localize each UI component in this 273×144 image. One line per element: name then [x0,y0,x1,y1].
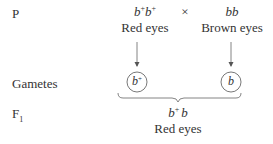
f1-genotype: b+b [168,105,188,121]
gamete-1: b+ [132,74,142,89]
arrow-parent1-to-gamete [135,42,140,67]
gamete-2-allele: b [228,74,234,88]
arrow-parent2-to-gamete [229,42,234,67]
f1-allele1-sup: + [175,105,180,114]
gamete-1-sup: + [138,75,142,83]
gamete-2: b [228,74,234,89]
brace-icon [118,93,241,102]
f1-phenotype: Red eyes [154,121,201,137]
cross-diagram-graphics [0,0,273,144]
f1-allele2: b [181,105,188,120]
